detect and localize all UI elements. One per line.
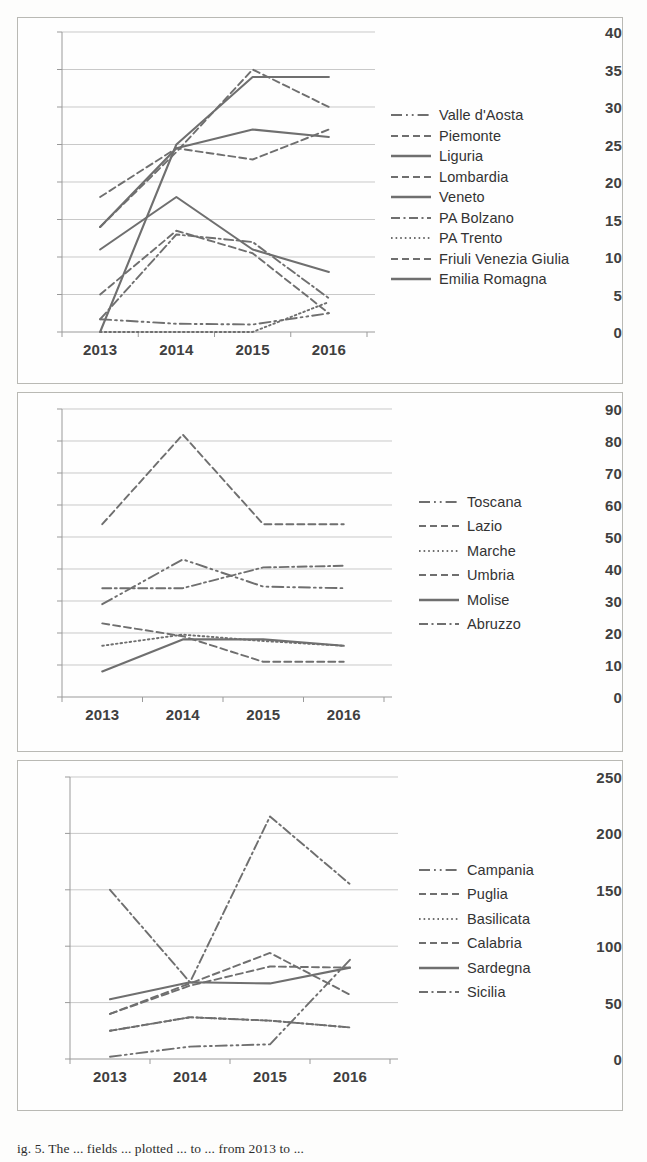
legend-label: Sardegna — [467, 960, 531, 976]
legend-swatch-icon — [390, 253, 432, 265]
legend-item[interactable]: Umbria — [418, 563, 522, 588]
x-axis-tick-label: 2015 — [236, 341, 270, 358]
legend-label: Friuli Venezia Giulia — [439, 251, 569, 267]
series-line-lombardia — [100, 70, 329, 228]
chart-north-legend: Valle d'AostaPiemonteLiguriaLombardiaVen… — [390, 52, 569, 342]
chart-north-plot — [18, 18, 397, 372]
legend-swatch-icon — [418, 520, 460, 532]
x-axis-tick-label: 2016 — [333, 1068, 367, 1085]
legend-swatch-icon — [390, 130, 432, 142]
legend-swatch-icon — [418, 937, 460, 949]
legend-label: Emilia Romagna — [439, 271, 547, 287]
x-axis-tick-label: 2013 — [85, 706, 119, 723]
legend-label: Veneto — [439, 189, 485, 205]
y-axis-tick-label: 40 — [587, 24, 622, 41]
x-axis-tick-label: 2015 — [253, 1068, 287, 1085]
legend-swatch-icon — [390, 109, 432, 121]
y-axis-tick-label: 5 — [587, 286, 622, 303]
y-axis-tick-label: 90 — [587, 401, 622, 418]
legend-item[interactable]: Sardegna — [418, 956, 534, 981]
legend-swatch-icon — [418, 962, 460, 974]
y-axis-tick-label: 200 — [579, 825, 622, 842]
series-line-veneto — [100, 197, 329, 272]
series-line-liguria — [100, 77, 329, 332]
legend-item[interactable]: Lazio — [418, 514, 522, 539]
legend-label: Lazio — [467, 518, 502, 534]
legend-item[interactable]: Calabria — [418, 931, 534, 956]
legend-swatch-icon — [418, 496, 460, 508]
legend-item[interactable]: Molise — [418, 588, 522, 613]
chart-south: 0501001502002502013201420152016CampaniaP… — [18, 761, 622, 1110]
chart-panel-center: 01020304050607080902013201420152016Tosca… — [17, 392, 623, 752]
legend-label: Puglia — [467, 886, 508, 902]
legend-item[interactable]: Campania — [418, 858, 534, 883]
legend-item[interactable]: PA Bolzano — [390, 207, 569, 228]
x-axis-tick-label: 2014 — [173, 1068, 207, 1085]
legend-label: Piemonte — [439, 128, 501, 144]
legend-label: Basilicata — [467, 911, 530, 927]
x-axis-tick-label: 2015 — [246, 706, 280, 723]
chart-south-legend: CampaniaPugliaBasilicataCalabriaSardegna… — [418, 831, 534, 1031]
figure-page: 05101520253035402013201420152016Valle d'… — [0, 0, 647, 1162]
series-line-sardegna — [110, 968, 350, 1000]
legend-label: Marche — [467, 543, 516, 559]
legend-swatch-icon — [418, 594, 460, 606]
legend-label: PA Trento — [439, 230, 503, 246]
legend-item[interactable]: Puglia — [418, 882, 534, 907]
legend-swatch-icon — [418, 569, 460, 581]
legend-label: Valle d'Aosta — [439, 107, 523, 123]
y-axis-tick-label: 150 — [579, 881, 622, 898]
legend-item[interactable]: Friuli Venezia Giulia — [390, 248, 569, 269]
x-axis-tick-label: 2013 — [83, 341, 117, 358]
y-axis-tick-label: 20 — [587, 625, 622, 642]
legend-item[interactable]: Liguria — [390, 146, 569, 167]
legend-label: Toscana — [467, 494, 522, 510]
legend-item[interactable]: Lombardia — [390, 166, 569, 187]
legend-item[interactable]: PA Trento — [390, 228, 569, 249]
legend-swatch-icon — [390, 273, 432, 285]
legend-item[interactable]: Basilicata — [418, 907, 534, 932]
legend-item[interactable]: Marche — [418, 539, 522, 564]
chart-center-plot — [18, 393, 414, 737]
legend-swatch-icon — [390, 232, 432, 244]
legend-label: Liguria — [439, 148, 483, 164]
chart-center: 01020304050607080902013201420152016Tosca… — [18, 393, 622, 751]
legend-item[interactable]: Valle d'Aosta — [390, 105, 569, 126]
legend-item[interactable]: Emilia Romagna — [390, 269, 569, 290]
legend-item[interactable]: Abruzzo — [418, 612, 522, 637]
legend-label: Molise — [467, 592, 510, 608]
y-axis-tick-label: 250 — [579, 769, 622, 786]
chart-south-plot — [18, 761, 420, 1099]
x-axis-tick-label: 2013 — [93, 1068, 127, 1085]
legend-label: Lombardia — [439, 169, 508, 185]
legend-item[interactable]: Veneto — [390, 187, 569, 208]
legend-label: Umbria — [467, 567, 514, 583]
legend-label: Campania — [467, 862, 534, 878]
legend-label: Sicilia — [467, 984, 506, 1000]
y-axis-tick-label: 70 — [587, 465, 622, 482]
x-axis-tick-label: 2016 — [327, 706, 361, 723]
legend-label: Calabria — [467, 935, 522, 951]
x-axis-tick-label: 2014 — [166, 706, 200, 723]
figure-caption: ig. 5. The ... fields ... plotted ... to… — [17, 1141, 630, 1162]
legend-swatch-icon — [418, 864, 460, 876]
chart-center-legend: ToscanaLazioMarcheUmbriaMoliseAbruzzo — [418, 463, 522, 663]
legend-swatch-icon — [418, 986, 460, 998]
series-line-lazio — [102, 435, 344, 525]
y-axis-tick-label: 25 — [587, 136, 622, 153]
legend-item[interactable]: Sicilia — [418, 980, 534, 1005]
y-axis-tick-label: 20 — [587, 174, 622, 191]
chart-north: 05101520253035402013201420152016Valle d'… — [18, 18, 622, 383]
legend-item[interactable]: Piemonte — [390, 125, 569, 146]
legend-swatch-icon — [390, 191, 432, 203]
legend-swatch-icon — [418, 888, 460, 900]
y-axis-tick-label: 0 — [579, 1051, 622, 1068]
series-line-pa-trento — [100, 302, 329, 332]
legend-swatch-icon — [390, 171, 432, 183]
legend-label: PA Bolzano — [439, 210, 514, 226]
y-axis-tick-label: 0 — [587, 324, 622, 341]
y-axis-tick-label: 100 — [579, 938, 622, 955]
y-axis-tick-label: 15 — [587, 211, 622, 228]
legend-item[interactable]: Toscana — [418, 490, 522, 515]
y-axis-tick-label: 30 — [587, 99, 622, 116]
